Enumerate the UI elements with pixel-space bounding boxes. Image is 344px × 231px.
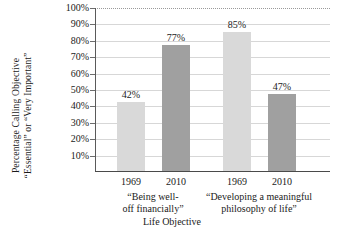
gridline-100 [95,8,330,9]
y-tick-label: 50% [71,85,89,95]
bar-chart-figure: Percentage Calling Objective “Essential”… [0,0,344,231]
bar-1969-being-well-off [117,102,145,171]
y-axis-tick-labels: 100% 90% 80% 70% 60% 50% 40% 30% 20% 10% [38,8,92,172]
y-tick-label: 80% [71,36,89,46]
x-tick-label-2010-group1: 2010 [166,176,186,187]
y-axis-line [95,8,96,172]
x-tick-label-1969-group2: 1969 [227,176,247,187]
y-tick-label: 30% [71,118,89,128]
y-tick-label: 90% [71,19,89,29]
x-axis-line [95,171,330,172]
y-tick-label: 10% [71,151,89,161]
bar-2010-philosophy-of-life [268,94,296,171]
x-axis-title-text: Life Objective [143,216,201,227]
x-axis-title: Life Objective [0,216,344,227]
x-group-label-line2: philosophy of life” [184,203,334,215]
bar-2010-being-well-off [162,45,190,171]
bar-value-label: 42% [117,90,145,100]
gridline-60 [95,74,330,75]
x-tick-label-2010-group2: 2010 [272,176,292,187]
plot-area: 42% 77% 85% 47% [95,8,330,172]
y-tick-label: 20% [71,134,89,144]
x-group-label-philosophy-of-life: “Developing a meaningful philosophy of l… [184,191,334,215]
x-tick-label-1969-group1: 1969 [121,176,141,187]
y-axis-title-line1: Percentage Calling Objective [10,58,22,173]
bar-value-label: 85% [223,20,251,30]
y-tick-label: 70% [71,52,89,62]
y-axis-title-line2: “Essential” or “Very Important” [22,53,34,179]
x-group-label-line1: “Developing a meaningful [184,191,334,203]
gridline-80 [95,41,330,42]
gridline-90 [95,24,330,25]
y-tick-label: 60% [71,69,89,79]
y-tick-label: 40% [71,101,89,111]
bar-1969-philosophy-of-life [223,32,251,171]
gridline-70 [95,57,330,58]
bar-value-label: 47% [268,82,296,92]
bar-value-label: 77% [162,33,190,43]
y-tick-label: 100% [66,3,89,13]
